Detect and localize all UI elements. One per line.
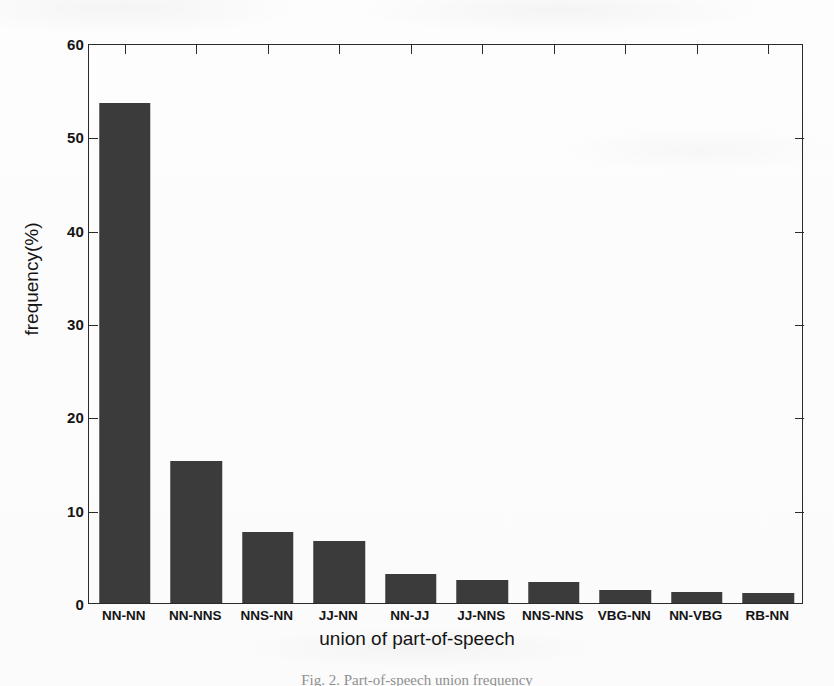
x-tick-label-vbg-nn: VBG-NN: [598, 608, 651, 623]
y-tick-label-60: 60: [0, 36, 84, 53]
y-tick-mark-right-20: [795, 418, 804, 419]
x-tick-mark-top-vbg-nn: [625, 45, 626, 54]
x-tick-label-nn-nns: NN-NNS: [169, 608, 222, 623]
y-tick-mark-right-10: [795, 512, 804, 513]
x-tick-label-jj-nns: JJ-NNS: [457, 608, 505, 623]
x-tick-label-jj-nn: JJ-NN: [319, 608, 358, 623]
x-tick-mark-top-nn-vbg: [697, 45, 698, 54]
y-tick-label-0: 0: [0, 596, 84, 613]
x-tick-label-nns-nn: NNS-NN: [241, 608, 294, 623]
x-tick-label-nns-nns: NNS-NNS: [522, 608, 584, 623]
x-tick-label-rb-nn: RB-NN: [746, 608, 790, 623]
x-tick-mark-top-rb-nn: [768, 45, 769, 54]
bar-jj-nn: [314, 541, 365, 603]
bar-nns-nns: [528, 582, 579, 603]
x-tick-mark-top-jj-nns: [482, 45, 483, 54]
x-tick-mark-top-nns-nns: [554, 45, 555, 54]
bar-nn-vbg: [671, 592, 722, 603]
bar-rb-nn: [743, 593, 794, 603]
x-tick-label-nn-nn: NN-NN: [102, 608, 146, 623]
y-axis-title: frequency(%): [21, 99, 43, 459]
bar-chart-figure: 0102030405060 frequency(%) NN-NNNN-NNSNN…: [0, 0, 834, 686]
x-tick-mark-top-nn-jj: [411, 45, 412, 54]
x-tick-mark-top-nn-nn: [125, 45, 126, 54]
x-tick-label-nn-jj: NN-JJ: [390, 608, 429, 623]
figure-caption: Fig. 2. Part-of-speech union frequency: [0, 672, 834, 686]
y-tick-label-10: 10: [0, 502, 84, 519]
bar-jj-nns: [457, 580, 508, 603]
x-tick-mark-top-nns-nn: [268, 45, 269, 54]
x-axis-title: union of part-of-speech: [0, 628, 834, 650]
y-tick-mark-right-30: [795, 325, 804, 326]
y-tick-mark-30: [89, 325, 98, 326]
plot-frame: [88, 44, 803, 604]
bar-nn-nn: [99, 103, 150, 603]
y-tick-mark-10: [89, 512, 98, 513]
y-tick-mark-right-40: [795, 232, 804, 233]
y-tick-mark-20: [89, 418, 98, 419]
bar-nn-nns: [171, 461, 222, 603]
bar-nns-nn: [242, 532, 293, 603]
x-tick-label-nn-vbg: NN-VBG: [669, 608, 722, 623]
y-tick-mark-right-50: [795, 138, 804, 139]
y-tick-mark-50: [89, 138, 98, 139]
bar-nn-jj: [385, 574, 436, 603]
x-tick-mark-top-nn-nns: [196, 45, 197, 54]
y-tick-mark-40: [89, 232, 98, 233]
x-tick-mark-top-jj-nn: [339, 45, 340, 54]
bar-vbg-nn: [600, 590, 651, 603]
